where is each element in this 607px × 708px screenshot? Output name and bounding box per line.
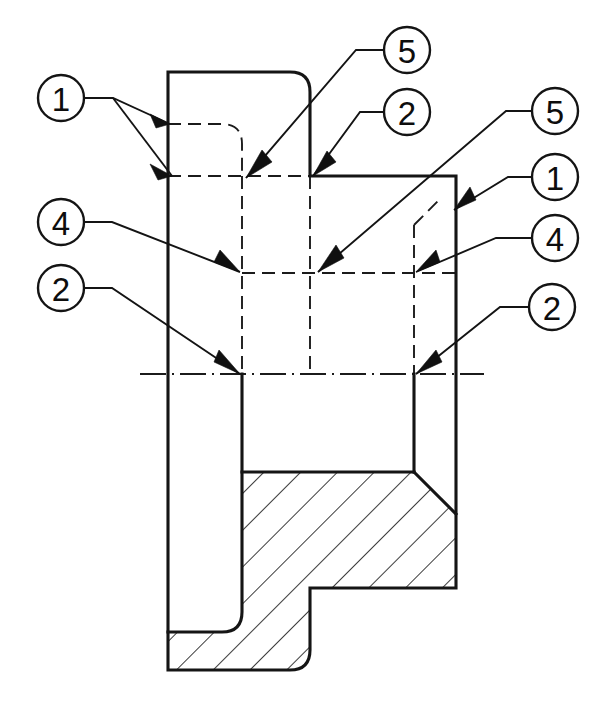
balloon-1-top-left[interactable]: 1 xyxy=(38,75,84,121)
balloon-4-right[interactable]: 4 xyxy=(532,215,578,261)
balloon-label: 1 xyxy=(546,160,564,197)
balloon-2-right[interactable]: 2 xyxy=(529,284,575,330)
balloon-label: 1 xyxy=(52,81,70,118)
arrowhead-5-right xyxy=(318,245,344,272)
hidden-edges-group xyxy=(168,124,456,374)
balloon-label: 4 xyxy=(52,205,70,242)
balloon-5-right[interactable]: 5 xyxy=(532,88,578,134)
balloon-label: 2 xyxy=(52,271,70,308)
section-hatching xyxy=(150,450,490,700)
hidden-edge-upper-bore-fillet xyxy=(168,124,242,176)
balloon-label: 2 xyxy=(543,290,561,327)
hidden-edge-chamfer xyxy=(414,199,440,225)
balloon-4-left[interactable]: 4 xyxy=(38,199,84,245)
balloon-label: 4 xyxy=(546,221,564,258)
leader-5-right xyxy=(318,111,532,272)
balloons-group: 1 4 2 5 2 5 xyxy=(38,27,578,330)
arrowhead-4-left xyxy=(214,250,240,272)
balloon-2-top-center[interactable]: 2 xyxy=(384,89,430,135)
technical-drawing-page: 1 4 2 5 2 5 xyxy=(0,0,607,708)
engineering-drawing-canvas: 1 4 2 5 2 5 xyxy=(0,0,607,708)
balloon-label: 5 xyxy=(546,94,564,131)
balloon-2-left[interactable]: 2 xyxy=(38,265,84,311)
balloon-1-right[interactable]: 1 xyxy=(532,154,578,200)
leader-1-top-left-b xyxy=(113,98,172,176)
leaders-group xyxy=(84,50,532,374)
arrowhead-2-top-center xyxy=(313,151,336,176)
hatch-fill-region xyxy=(150,450,490,700)
arrowhead-5-top-center xyxy=(246,150,272,178)
arrowhead-4-right xyxy=(416,250,440,272)
bore-left-visible-wall xyxy=(168,374,242,632)
balloon-5-top-center[interactable]: 5 xyxy=(384,27,430,73)
leader-4-left xyxy=(84,222,240,272)
arrowhead-2-left xyxy=(214,350,240,374)
arrowhead-2-right xyxy=(416,350,442,374)
balloon-label: 2 xyxy=(398,95,416,132)
balloon-label: 5 xyxy=(398,33,416,70)
